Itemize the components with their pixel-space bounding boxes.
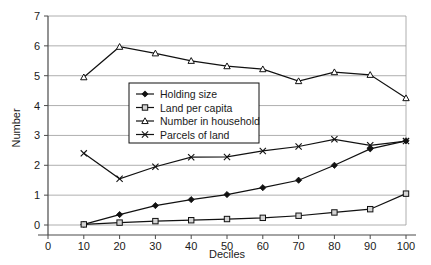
y-tick-label: 0 <box>34 219 40 231</box>
x-tick-label: 40 <box>185 240 197 252</box>
data-point-marker-square <box>117 220 122 225</box>
legend-label: Number in household <box>160 115 260 127</box>
legend-label: Land per capita <box>160 102 233 114</box>
x-tick-label: 20 <box>113 240 125 252</box>
y-tick-label: 6 <box>34 40 40 52</box>
data-point-marker-square <box>189 218 194 223</box>
x-tick-label: 80 <box>328 240 340 252</box>
data-point-marker-square <box>224 216 229 221</box>
y-tick-label: 5 <box>34 70 40 82</box>
y-tick-label: 3 <box>34 129 40 141</box>
x-tick-label: 10 <box>78 240 90 252</box>
data-point-marker-square <box>332 210 337 215</box>
x-tick-label: 0 <box>45 240 51 252</box>
data-point-marker-square <box>296 213 301 218</box>
data-point-marker-square <box>153 218 158 223</box>
data-point-marker-square <box>403 191 408 196</box>
data-point-marker-square <box>368 206 373 211</box>
x-tick-label: 70 <box>292 240 304 252</box>
data-point-marker-square <box>260 215 265 220</box>
x-tick-label: 90 <box>364 240 376 252</box>
x-tick-label: 60 <box>257 240 269 252</box>
y-axis-title: Number <box>10 108 22 147</box>
legend-label: Parcels of land <box>160 129 230 141</box>
x-axis-title: Deciles <box>209 248 246 260</box>
chart-canvas: 01234567 0102030405060708090100 Holding … <box>0 0 431 265</box>
chart-legend: Holding sizeLand per capitaNumber in hou… <box>129 83 260 143</box>
y-tick-label: 2 <box>34 159 40 171</box>
line-chart: 01234567 0102030405060708090100 Holding … <box>0 0 431 265</box>
x-tick-label: 100 <box>397 240 415 252</box>
y-tick-label: 1 <box>34 189 40 201</box>
y-tick-label: 7 <box>34 10 40 22</box>
legend-sample-marker-square <box>142 105 147 110</box>
data-point-marker-square <box>81 222 86 227</box>
legend-label: Holding size <box>160 88 217 100</box>
x-tick-label: 30 <box>149 240 161 252</box>
y-tick-label: 4 <box>34 100 40 112</box>
